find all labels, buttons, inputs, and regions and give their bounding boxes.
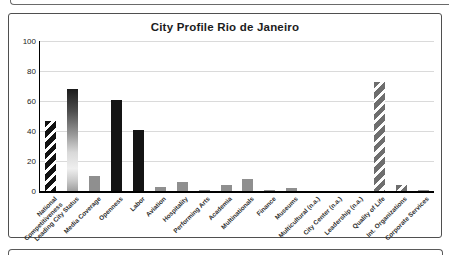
bar-16 xyxy=(396,185,407,191)
y-tick-label-0: 0 xyxy=(11,187,36,196)
y-tick-label-40: 40 xyxy=(11,127,36,136)
x-tick-label-17: Corporate Services xyxy=(384,195,431,242)
y-tick-label-20: 20 xyxy=(11,157,36,166)
bar-9 xyxy=(242,179,253,191)
bar-10 xyxy=(264,190,275,191)
x-tick-label-4: Labor xyxy=(128,195,146,213)
y-tick-label-100: 100 xyxy=(11,37,36,46)
bar-7 xyxy=(199,190,210,191)
chart-frame: City Profile Rio de Janeiro 020406080100… xyxy=(8,13,442,238)
adjacent-frame-top-edge xyxy=(10,0,449,5)
x-axis-labels: National CompetitivenessLeading City Sta… xyxy=(39,195,433,239)
bar-6 xyxy=(177,182,188,191)
y-tick-label-80: 80 xyxy=(11,67,36,76)
chart-title: City Profile Rio de Janeiro xyxy=(9,21,441,33)
adjacent-frame-bottom-edge xyxy=(8,249,443,255)
bar-5 xyxy=(155,187,166,192)
bar-2 xyxy=(89,176,100,191)
bar-4 xyxy=(133,130,144,192)
bar-0 xyxy=(45,121,56,192)
bar-3 xyxy=(111,100,122,192)
y-tick-label-60: 60 xyxy=(11,97,36,106)
gridline-100 xyxy=(40,41,434,42)
bar-15 xyxy=(374,82,385,192)
bar-1 xyxy=(67,89,78,191)
plot-area xyxy=(39,41,434,193)
screenshot-stage: City Profile Rio de Janeiro 020406080100… xyxy=(0,0,449,255)
bar-11 xyxy=(286,188,297,191)
gridline-80 xyxy=(40,71,434,72)
bar-8 xyxy=(221,185,232,191)
bar-17 xyxy=(418,190,429,191)
